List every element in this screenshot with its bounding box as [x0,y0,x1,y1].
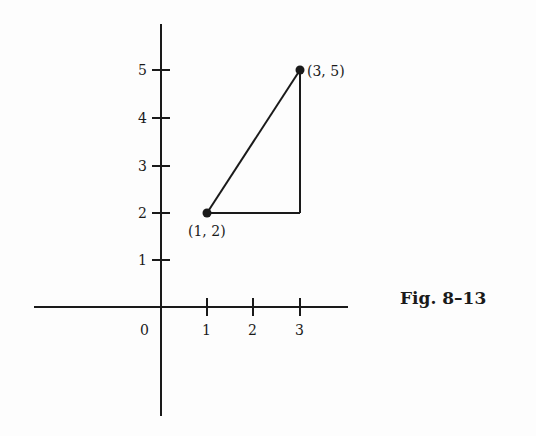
x-tick-label-2: 2 [248,322,257,338]
figure-caption: Fig. 8–13 [400,288,486,308]
y-tick-label-2: 2 [138,205,147,221]
y-tick-label-4: 4 [138,110,147,126]
y-tick-label-1: 1 [138,252,147,268]
y-tick-label-5: 5 [138,62,147,78]
point-label-3-5: (3, 5) [307,63,345,79]
point-3-5 [296,66,305,75]
point-label-1-2: (1, 2) [188,223,226,239]
point-1-2 [203,209,212,218]
x-tick-label-1: 1 [202,322,211,338]
coordinate-plane: 0 1 2 3 1 2 3 4 5 (1, 2) (3, 5) [0,0,536,436]
hypotenuse-segment [207,70,300,213]
x-tick-label-3: 3 [295,322,304,338]
figure-canvas: 0 1 2 3 1 2 3 4 5 (1, 2) (3, 5) Fig. 8–1… [0,0,536,436]
x-tick-label-0: 0 [140,322,149,338]
y-tick-label-3: 3 [138,158,147,174]
